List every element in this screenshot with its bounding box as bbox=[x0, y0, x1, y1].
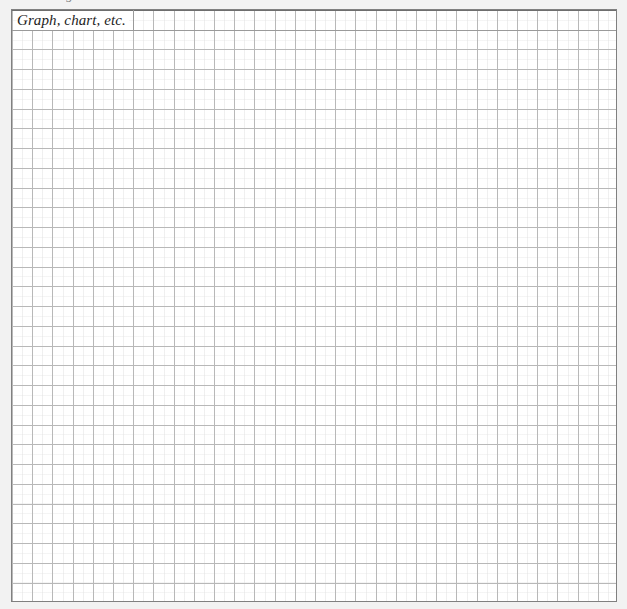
graph-placeholder-caption: Graph, chart, etc. bbox=[17, 11, 129, 30]
caption-cell-divider bbox=[133, 10, 134, 30]
graph-paper-grid[interactable]: Graph, chart, etc. bbox=[11, 9, 617, 602]
clipped-heading-fragment: g bbox=[11, 0, 611, 3]
grid-major-lines bbox=[12, 10, 616, 601]
clipped-heading-text: g bbox=[66, 0, 73, 2]
caption-row-divider bbox=[12, 30, 616, 31]
page-canvas: g Graph, chart, etc. bbox=[0, 0, 627, 609]
